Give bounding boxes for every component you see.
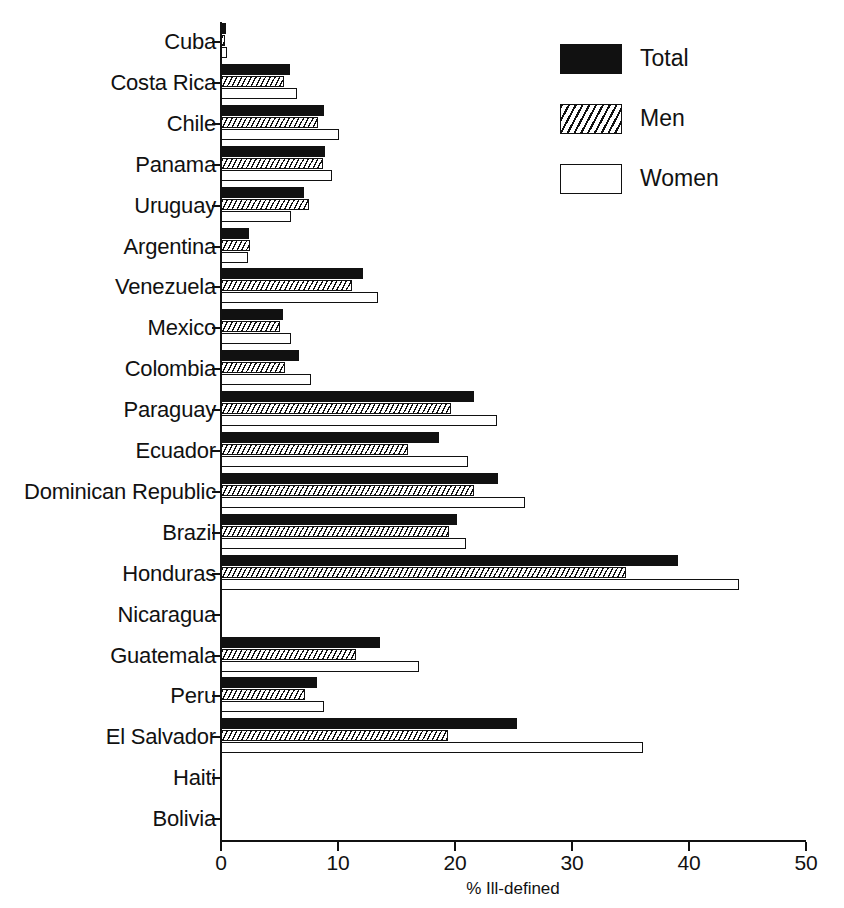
bar-women-cuba <box>221 47 227 58</box>
x-tick-30 <box>571 842 573 851</box>
category-label-bolivia: Bolivia <box>153 806 216 832</box>
y-tick <box>212 818 221 820</box>
bar-men-el-salvador <box>221 730 448 741</box>
category-label-nicaragua: Nicaragua <box>118 602 216 628</box>
y-tick <box>212 777 221 779</box>
y-tick <box>212 736 221 738</box>
category-label-haiti: Haiti <box>173 765 216 791</box>
x-tick-40 <box>688 842 690 851</box>
x-axis-line <box>220 840 806 842</box>
legend-label-total: Total <box>640 45 689 72</box>
bar-women-ecuador <box>221 456 468 467</box>
category-label-argentina: Argentina <box>124 234 216 260</box>
x-tick-20 <box>454 842 456 851</box>
category-label-ecuador: Ecuador <box>135 438 216 464</box>
x-tick-label-30: 30 <box>542 851 602 875</box>
x-tick-0 <box>220 842 222 851</box>
chart-row: Bolivia <box>0 799 844 839</box>
bar-total-uruguay <box>221 187 304 198</box>
chart-row: El Salvador <box>0 717 844 757</box>
chart-row: Mexico <box>0 308 844 348</box>
legend-swatch-men-icon <box>560 104 622 134</box>
y-tick <box>212 286 221 288</box>
legend-swatch-women-icon <box>560 164 622 194</box>
x-tick-label-50: 50 <box>776 851 836 875</box>
bar-total-ecuador <box>221 432 439 443</box>
category-label-cuba: Cuba <box>164 29 216 55</box>
bar-women-brazil <box>221 538 466 549</box>
bar-men-ecuador <box>221 444 408 455</box>
bar-men-uruguay <box>221 199 309 210</box>
y-tick <box>212 409 221 411</box>
category-label-paraguay: Paraguay <box>123 397 216 423</box>
bar-women-costa-rica <box>221 88 297 99</box>
y-tick <box>212 614 221 616</box>
category-label-chile: Chile <box>167 111 216 137</box>
x-tick-10 <box>337 842 339 851</box>
bar-women-uruguay <box>221 211 291 222</box>
bar-women-peru <box>221 701 324 712</box>
legend-label-men: Men <box>640 105 685 132</box>
chart-row: Costa Rica <box>0 63 844 103</box>
bar-total-peru <box>221 677 317 688</box>
chart-row: Brazil <box>0 513 844 553</box>
bar-total-brazil <box>221 514 457 525</box>
chart-row: Nicaragua <box>0 595 844 635</box>
bar-women-venezuela <box>221 292 378 303</box>
x-tick-label-10: 10 <box>308 851 368 875</box>
chart-row: Cuba <box>0 22 844 62</box>
x-tick-label-40: 40 <box>659 851 719 875</box>
chart-row: Venezuela <box>0 267 844 307</box>
category-label-peru: Peru <box>170 683 216 709</box>
bar-women-paraguay <box>221 415 497 426</box>
bar-men-honduras <box>221 567 626 578</box>
category-label-uruguay: Uruguay <box>134 193 216 219</box>
y-tick <box>212 41 221 43</box>
chart-row: Argentina <box>0 227 844 267</box>
chart-row: Peru <box>0 676 844 716</box>
bar-total-argentina <box>221 228 249 239</box>
bar-men-peru <box>221 689 305 700</box>
bar-total-venezuela <box>221 268 363 279</box>
category-label-dominican-republic: Dominican Republic <box>24 479 216 505</box>
bar-women-mexico <box>221 333 291 344</box>
chart-row: Haiti <box>0 758 844 798</box>
y-tick <box>212 532 221 534</box>
x-axis-title: % Ill-defined <box>220 879 806 899</box>
bar-men-mexico <box>221 321 280 332</box>
bar-men-paraguay <box>221 403 451 414</box>
bar-total-guatemala <box>221 637 380 648</box>
bar-men-panama <box>221 158 323 169</box>
bar-women-dominican-republic <box>221 497 525 508</box>
bar-women-el-salvador <box>221 742 643 753</box>
chart-row: Dominican Republic <box>0 472 844 512</box>
category-label-guatemala: Guatemala <box>110 643 216 669</box>
bar-total-colombia <box>221 350 299 361</box>
x-tick-label-0: 0 <box>191 851 251 875</box>
bar-women-panama <box>221 170 332 181</box>
chart-row: Colombia <box>0 349 844 389</box>
bar-women-guatemala <box>221 661 419 672</box>
category-label-costa-rica: Costa Rica <box>110 70 216 96</box>
y-tick <box>212 368 221 370</box>
bar-total-honduras <box>221 555 678 566</box>
y-tick <box>212 82 221 84</box>
y-tick <box>212 655 221 657</box>
y-tick <box>212 695 221 697</box>
y-tick <box>212 491 221 493</box>
y-tick <box>212 205 221 207</box>
bar-total-panama <box>221 146 325 157</box>
y-tick <box>212 123 221 125</box>
category-label-honduras: Honduras <box>122 561 216 587</box>
bar-men-cuba <box>221 35 225 46</box>
chart-row: Paraguay <box>0 390 844 430</box>
bar-men-brazil <box>221 526 449 537</box>
bar-men-chile <box>221 117 318 128</box>
bar-total-chile <box>221 105 324 116</box>
y-tick <box>212 246 221 248</box>
chart-row: Honduras <box>0 554 844 594</box>
bar-men-dominican-republic <box>221 485 474 496</box>
chart-row: Ecuador <box>0 431 844 471</box>
bar-women-chile <box>221 129 339 140</box>
bar-men-costa-rica <box>221 76 284 87</box>
